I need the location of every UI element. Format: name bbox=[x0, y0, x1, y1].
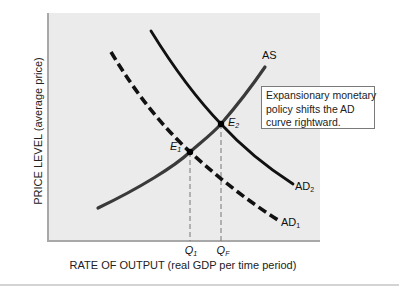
e2-label: E2 bbox=[228, 117, 239, 129]
x-axis-label: RATE OF OUTPUT (real GDP per time period… bbox=[47, 259, 319, 271]
e1-label: E1 bbox=[170, 141, 181, 153]
e1-label-sub: 1 bbox=[177, 146, 181, 153]
ad1-label-base: AD bbox=[281, 216, 296, 228]
callout-line-1: Expansionary monetary bbox=[266, 89, 371, 103]
qf-label-sub: F bbox=[225, 250, 229, 257]
qf-label-base: Q bbox=[217, 244, 226, 256]
ad-as-chart: AS AD2 AD1 E1 E2 Q1 QF PRICE LEVEL (aver… bbox=[0, 0, 399, 294]
ad1-curve bbox=[111, 52, 278, 220]
as-curve bbox=[98, 67, 265, 208]
curves-layer bbox=[0, 0, 399, 294]
q1-label-base: Q bbox=[185, 244, 194, 256]
e1-point bbox=[187, 149, 193, 155]
ad2-label: AD2 bbox=[295, 181, 314, 193]
annotation-callout: Expansionary monetary policy shifts the … bbox=[261, 86, 375, 129]
ad1-label: AD1 bbox=[281, 217, 300, 229]
ad2-label-sub: 2 bbox=[310, 186, 314, 193]
y-axis-label: PRICE LEVEL (average price) bbox=[32, 57, 44, 205]
as-label: AS bbox=[262, 50, 277, 61]
e2-label-sub: 2 bbox=[235, 122, 239, 129]
q1-label-sub: 1 bbox=[193, 250, 197, 257]
e2-point bbox=[218, 121, 224, 127]
callout-line-3: curve rightward. bbox=[266, 116, 371, 130]
ad1-label-sub: 1 bbox=[296, 222, 300, 229]
as-label-text: AS bbox=[262, 49, 277, 61]
qf-tick-label: QF bbox=[217, 245, 230, 257]
q1-tick-label: Q1 bbox=[185, 245, 197, 257]
callout-line-2: policy shifts the AD bbox=[266, 103, 371, 117]
bottom-divider bbox=[0, 284, 399, 286]
ad2-label-base: AD bbox=[295, 180, 310, 192]
